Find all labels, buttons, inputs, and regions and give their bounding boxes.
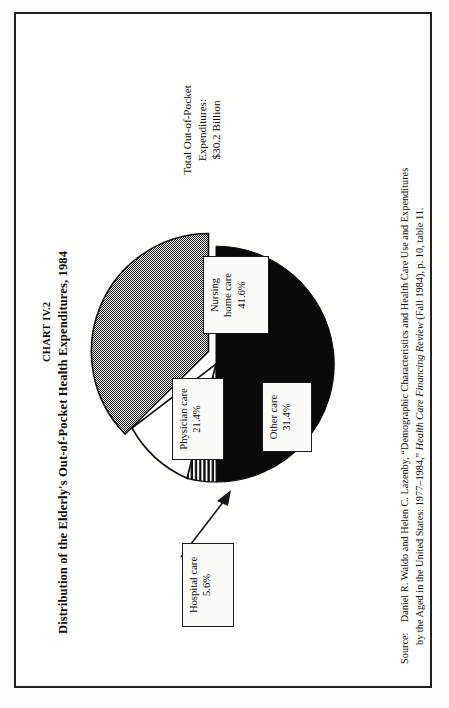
pie-label-nursing-line-1: Nursing [208, 262, 221, 328]
pie-label-hospital-care: Hospital care 5.6% [182, 543, 234, 627]
pie-chart [88, 192, 338, 522]
source-note-line-2: by the Aged in the United States: 1977–1… [413, 34, 428, 664]
pie-label-hospital-line-1: Hospital care [187, 549, 200, 621]
chart-number: CHART IV.2 [36, 302, 54, 362]
pie-label-physician-value: 21.4% [190, 384, 203, 454]
pie-label-hospital-value: 5.6% [200, 549, 213, 621]
pie-label-physician-line-1: Physician care [177, 384, 190, 454]
source-journal-title: Health Care Financing Review [414, 322, 425, 450]
source-label: Source: [399, 633, 410, 664]
pie-label-nursing-line-2: home care [221, 262, 234, 328]
pie-label-nursing-value: 41.6% [235, 262, 248, 328]
source-line-2-text-b: (Fall 1984), p. 10, table 11. [414, 208, 425, 323]
total-expenditures-callout: Total Out-of-Pocket Expenditures: $30.2 … [180, 55, 224, 205]
pie-label-other-value: 31.4% [280, 388, 293, 446]
total-callout-line-2: Expenditures: [195, 55, 210, 205]
pie-chart-svg [88, 192, 338, 522]
page-title: Distribution of the Elderly's Out-of-Poc… [53, 251, 71, 634]
chart-number-text: CHART IV.2 [41, 302, 52, 362]
total-callout-line-3: $30.2 Billion [209, 55, 224, 205]
pie-label-nursing-home-care: Nursing home care 41.6% [203, 256, 269, 334]
pie-label-other-line-1: Other care [267, 388, 280, 446]
source-line-2-text-a: by the Aged in the United States: 1977–1… [414, 450, 425, 645]
source-note: Source: Daniel R. Waldo and Helen C. Laz… [398, 34, 427, 664]
pie-label-physician-care: Physician care 21.4% [172, 378, 224, 460]
source-line-1-text: Daniel R. Waldo and Helen C. Lazenby, “D… [399, 168, 410, 622]
source-note-line-1: Source: Daniel R. Waldo and Helen C. Laz… [398, 34, 413, 664]
pie-label-other-care: Other care 31.4% [262, 382, 312, 452]
chart-title-text: Distribution of the Elderly's Out-of-Poc… [56, 251, 70, 634]
total-callout-line-1: Total Out-of-Pocket [180, 55, 195, 205]
page-canvas: CHART IV.2 Distribution of the Elderly's… [0, 0, 449, 708]
